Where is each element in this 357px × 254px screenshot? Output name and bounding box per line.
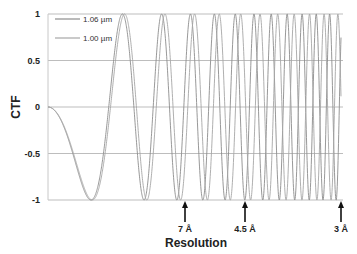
resolution-label: 4.5 Å — [234, 224, 256, 234]
y-tick-label: 0.5 — [27, 56, 40, 66]
y-tick-label: -0.5 — [24, 149, 40, 159]
ctf-chart: 10.50-0.5-1 1.06 µm 1.00 µm CTF 7 Å4.5 Å… — [0, 0, 357, 254]
legend: 1.06 µm 1.00 µm — [55, 15, 112, 43]
arrowhead-icon — [338, 201, 344, 208]
resolution-markers: 7 Å4.5 Å3 Å — [178, 201, 349, 234]
x-axis-title: Resolution — [165, 236, 227, 250]
arrowhead-icon — [242, 201, 248, 208]
arrowhead-icon — [182, 201, 188, 208]
resolution-label: 7 Å — [178, 224, 193, 234]
y-axis-title: CTF — [9, 95, 23, 118]
y-tick-label: 1 — [35, 9, 40, 19]
y-tick-label: -1 — [32, 195, 40, 205]
legend-label-2: 1.00 µm — [83, 34, 112, 43]
resolution-label: 3 Å — [334, 224, 349, 234]
legend-label-1: 1.06 µm — [83, 15, 112, 24]
y-tick-label: 0 — [35, 102, 40, 112]
y-tick-labels: 10.50-0.5-1 — [24, 9, 40, 205]
